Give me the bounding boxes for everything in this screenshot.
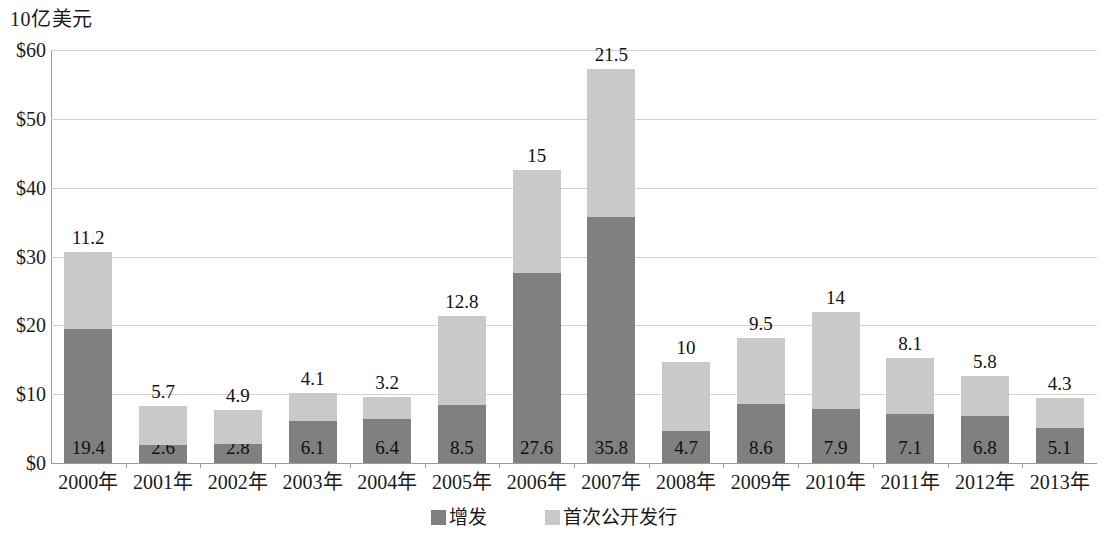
bar-group[interactable]: 5.14.3 (1036, 398, 1084, 463)
bar-top-value-label: 14 (804, 288, 868, 307)
legend-label: 首次公开发行 (563, 508, 677, 527)
bar-segment-ipo[interactable] (662, 362, 710, 431)
bar-top-value-label: 8.1 (878, 334, 942, 353)
bar-group[interactable]: 2.65.7 (139, 406, 187, 463)
x-axis-tick-mark (798, 463, 799, 468)
bar-segment-ipo[interactable] (961, 376, 1009, 416)
bar-group[interactable]: 8.512.8 (438, 316, 486, 463)
bar-top-value-label: 4.1 (281, 369, 345, 388)
bar-group[interactable]: 7.914 (812, 312, 860, 463)
bar-segment-ipo[interactable] (214, 410, 262, 444)
x-axis-tick-mark (275, 463, 276, 468)
y-axis-tick-labels: $0$10$20$30$40$50$60 (0, 50, 46, 463)
gridline (51, 119, 1097, 120)
y-axis-tick-label: $20 (0, 315, 46, 335)
bar-segment-ipo[interactable] (289, 393, 337, 421)
x-axis-tick-mark (499, 463, 500, 468)
bar-segment-ipo[interactable] (438, 316, 486, 404)
bar-value-label: 35.8 (587, 438, 635, 457)
bar-segment-ipo[interactable] (139, 406, 187, 445)
bar-group[interactable]: 27.615 (513, 170, 561, 463)
x-axis-tick-mark (425, 463, 426, 468)
stacked-bar-chart: 10亿美元 $0$10$20$30$40$50$60 19.411.22.65.… (0, 0, 1107, 535)
bar-group[interactable]: 6.43.2 (363, 397, 411, 463)
gridline (51, 50, 1097, 51)
y-axis-tick-label: $40 (0, 178, 46, 198)
x-axis-tick-mark (1022, 463, 1023, 468)
x-axis-tick-mark (200, 463, 201, 468)
bar-value-label: 27.6 (513, 438, 561, 457)
bar-segment-ipo[interactable] (363, 397, 411, 419)
gridline (51, 325, 1097, 326)
bar-top-value-label: 4.9 (206, 386, 270, 405)
bar-segment-ipo[interactable] (886, 358, 934, 414)
bar-segment-ipo[interactable] (64, 252, 112, 329)
bar-segment-ipo[interactable] (513, 170, 561, 273)
chart-legend: 增发首次公开发行 (0, 508, 1107, 527)
bar-top-value-label: 9.5 (729, 314, 793, 333)
bar-group[interactable]: 2.84.9 (214, 410, 262, 463)
bar-group[interactable]: 6.85.8 (961, 376, 1009, 463)
bar-segment-ipo[interactable] (812, 312, 860, 408)
bar-top-value-label: 3.2 (355, 373, 419, 392)
x-axis-tick-mark (574, 463, 575, 468)
x-axis-tick-mark (948, 463, 949, 468)
bar-group[interactable]: 19.411.2 (64, 252, 112, 463)
bar-value-label: 7.9 (812, 438, 860, 457)
x-axis-tick-mark (126, 463, 127, 468)
x-axis-tick-labels: 2000年2001年2002年2003年2004年2005年2006年2007年… (51, 470, 1097, 500)
legend-entry[interactable]: 首次公开发行 (545, 508, 677, 527)
bar-value-label: 8.5 (438, 438, 486, 457)
bar-value-label: 6.1 (289, 438, 337, 457)
bar-top-value-label: 15 (505, 146, 569, 165)
plot-area: 19.411.22.65.72.84.96.14.16.43.28.512.82… (51, 50, 1097, 463)
legend-swatch-icon (545, 510, 560, 525)
y-axis-title: 10亿美元 (10, 8, 93, 30)
bar-value-label: 19.4 (64, 438, 112, 457)
legend-label: 增发 (449, 508, 487, 527)
bar-top-value-label: 21.5 (579, 45, 643, 64)
x-axis-tick-mark (649, 463, 650, 468)
legend-swatch-icon (431, 510, 446, 525)
bar-top-value-label: 5.8 (953, 352, 1017, 371)
gridline (51, 257, 1097, 258)
bar-value-label: 7.1 (886, 438, 934, 457)
bar-segment-ipo[interactable] (1036, 398, 1084, 428)
bar-group[interactable]: 4.710 (662, 362, 710, 463)
bar-top-value-label: 4.3 (1028, 374, 1092, 393)
x-axis-tick-mark (873, 463, 874, 468)
bar-segment-seasoned-offering[interactable] (513, 273, 561, 463)
bar-group[interactable]: 35.821.5 (587, 69, 635, 463)
bar-value-label: 6.4 (363, 438, 411, 457)
bar-segment-seasoned-offering[interactable] (587, 217, 635, 463)
bar-segment-ipo[interactable] (587, 69, 635, 217)
x-axis-tick-label: 2013年 (1010, 470, 1107, 494)
bar-value-label: 5.1 (1036, 438, 1084, 457)
y-axis-tick-label: $50 (0, 109, 46, 129)
bar-group[interactable]: 7.18.1 (886, 358, 934, 463)
bar-value-label: 4.7 (662, 438, 710, 457)
x-axis-tick-mark (350, 463, 351, 468)
legend-entry[interactable]: 增发 (431, 508, 487, 527)
x-axis-tick-mark (723, 463, 724, 468)
bar-value-label: 8.6 (737, 438, 785, 457)
y-axis-tick-label: $30 (0, 247, 46, 267)
bar-top-value-label: 10 (654, 338, 718, 357)
bar-top-value-label: 5.7 (131, 382, 195, 401)
bar-group[interactable]: 6.14.1 (289, 393, 337, 463)
gridline (51, 188, 1097, 189)
y-axis-tick-label: $10 (0, 384, 46, 404)
y-axis-tick-label: $60 (0, 40, 46, 60)
bar-value-label: 6.8 (961, 438, 1009, 457)
bar-top-value-label: 11.2 (56, 228, 120, 247)
bar-top-value-label: 12.8 (430, 292, 494, 311)
bar-group[interactable]: 8.69.5 (737, 338, 785, 463)
bar-segment-ipo[interactable] (737, 338, 785, 403)
